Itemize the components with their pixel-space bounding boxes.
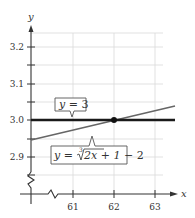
- y-axis: [28, 30, 34, 204]
- x-axis-label: x: [181, 188, 187, 199]
- x-axis-arrow-icon: [170, 192, 178, 197]
- svg-text:2x + 1 − 2: 2x + 1 − 2: [83, 149, 144, 162]
- y-axis-arrow-icon: [29, 25, 34, 32]
- y-tick-label: 3.0: [10, 115, 25, 125]
- x-tick-label: 62: [108, 202, 119, 212]
- y-tick-label: 3.1: [10, 79, 24, 89]
- x-tick-label: 61: [67, 202, 78, 212]
- x-axis: [20, 190, 170, 198]
- svg-text:y =: y =: [53, 149, 73, 162]
- callout-line-label: y = 3: [55, 98, 88, 117]
- x-tick-label: 63: [149, 202, 161, 212]
- chart: y 3.2 3.1 3.0 2.9 x 61 62 63 y = 3: [0, 0, 195, 218]
- curve-series: [31, 106, 175, 140]
- radical-index: 3: [79, 146, 83, 153]
- y-axis-label: y: [27, 11, 34, 22]
- intersection-point: [111, 117, 117, 123]
- svg-text:y = 3: y = 3: [58, 98, 88, 111]
- y-tick-label: 2.9: [10, 152, 25, 162]
- callout-curve-label: y = 3 2x + 1 − 2: [51, 136, 144, 164]
- y-tick-label: 3.2: [10, 42, 24, 52]
